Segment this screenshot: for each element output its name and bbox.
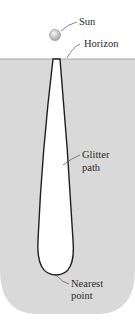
label-nearest-point-line2: point [71, 290, 93, 301]
label-glitter-path-line1: Glitter [82, 149, 110, 160]
label-horizon: Horizon [84, 38, 119, 49]
glitter-path-diagram: Sun Horizon Glitter path Nearest point [0, 0, 135, 321]
label-glitter-path-line2: path [82, 162, 101, 173]
sun-icon [50, 30, 61, 41]
sun-leader [61, 22, 77, 31]
label-sun: Sun [79, 16, 96, 27]
label-nearest-point-line1: Nearest [71, 278, 103, 289]
horizon-leader [67, 44, 80, 58]
